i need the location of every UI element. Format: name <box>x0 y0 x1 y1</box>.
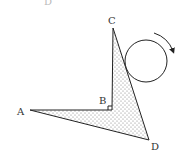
label-D: D <box>151 141 159 151</box>
label-A: A <box>16 106 25 117</box>
label-B: B <box>99 95 106 106</box>
right-angle-mark <box>108 106 112 110</box>
circle <box>125 40 167 82</box>
cutoff-label: D <box>44 0 52 7</box>
label-C: C <box>108 15 116 26</box>
geometry-diagram: D C B A D <box>0 0 184 151</box>
